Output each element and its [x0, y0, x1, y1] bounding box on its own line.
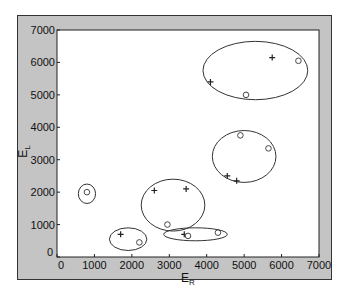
y-tick-label: 6000: [31, 56, 55, 68]
circle-marker: [215, 230, 221, 236]
y-tick-label: 4000: [31, 121, 55, 133]
x-tick-label: 2000: [120, 259, 144, 271]
x-tick-label: 7000: [307, 259, 331, 271]
y-tick-label: 7000: [31, 24, 55, 36]
x-tick-label: 5000: [232, 259, 256, 271]
circle-marker: [296, 58, 302, 64]
y-tick-label: 0: [47, 246, 53, 258]
x-tick-label: 0: [58, 259, 64, 271]
y-tick-label: 3000: [31, 154, 55, 166]
y-tick-label: 5000: [31, 89, 55, 101]
x-axis-label: ER: [181, 271, 195, 287]
plot-area: [57, 30, 319, 257]
x-tick-label: 4000: [194, 259, 218, 271]
circle-marker: [266, 146, 272, 152]
x-tick-label: 6000: [269, 259, 293, 271]
circle-marker: [185, 233, 191, 239]
x-tick-label: 1000: [82, 259, 106, 271]
scatter-plot: 0100020003000400050006000700001000200030…: [0, 0, 347, 299]
y-tick-label: 2000: [31, 186, 55, 198]
y-tick-label: 1000: [31, 219, 55, 231]
circle-marker: [84, 189, 90, 195]
circle-marker: [165, 222, 171, 228]
circle-marker: [137, 240, 143, 246]
y-axis-label: EL: [16, 145, 32, 158]
circle-marker: [243, 92, 249, 98]
x-tick-label: 3000: [157, 259, 181, 271]
circle-marker: [238, 133, 244, 139]
